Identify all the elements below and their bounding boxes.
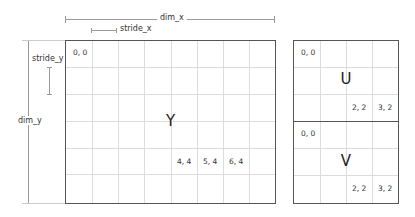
stride-y-line — [49, 67, 50, 94]
grid-line — [223, 41, 224, 203]
cell-label: 3, 2 — [378, 184, 392, 193]
stride-y-tick-top — [47, 67, 52, 68]
grid-line — [92, 41, 93, 203]
grid-line — [118, 41, 119, 203]
cell-label: 6, 4 — [229, 157, 243, 166]
grid-line — [66, 148, 275, 149]
dim-y-label: dim_y — [15, 116, 45, 125]
stride-x-tick-left — [91, 28, 92, 33]
grid-line — [320, 122, 321, 203]
u-plane-label: U — [341, 70, 352, 88]
stride-x-label: stride_x — [117, 24, 155, 33]
stride-y-label: stride_y — [32, 54, 64, 63]
dim-y-extension-top — [22, 40, 65, 41]
cell-label: 0, 0 — [73, 48, 87, 57]
dim-x-tick-left — [65, 16, 66, 23]
grid-line — [294, 67, 398, 68]
cell-label: 4, 4 — [177, 157, 191, 166]
grid-line — [320, 41, 321, 122]
cell-label: 0, 0 — [301, 48, 315, 57]
v-plane: 0, 0 2, 2 3, 2 V — [293, 121, 399, 204]
cell-label: 2, 2 — [352, 103, 366, 112]
grid-line — [372, 122, 373, 203]
grid-line — [197, 41, 198, 203]
cell-label: 5, 4 — [203, 157, 217, 166]
grid-line — [294, 148, 398, 149]
grid-line — [294, 94, 398, 95]
dim-y-extension-bottom — [22, 203, 65, 204]
u-plane: 0, 0 2, 2 3, 2 U — [293, 40, 399, 123]
stride-x-line — [91, 30, 116, 31]
grid-line — [66, 67, 275, 68]
v-plane-label: V — [341, 152, 351, 170]
cell-label: 2, 2 — [352, 184, 366, 193]
dim-x-tick-right — [274, 16, 275, 23]
y-plane-label: Y — [166, 112, 175, 130]
grid-line — [372, 41, 373, 122]
grid-line — [294, 175, 398, 176]
cell-label: 0, 0 — [301, 129, 315, 138]
cell-label: 3, 2 — [378, 103, 392, 112]
grid-line — [144, 41, 145, 203]
grid-line — [66, 94, 275, 95]
grid-line — [66, 174, 275, 175]
dim-x-label: dim_x — [157, 13, 187, 22]
grid-line — [249, 41, 250, 203]
y-plane: 0, 0 4, 4 5, 4 6, 4 Y — [65, 40, 276, 204]
stride-y-tick-bottom — [47, 94, 52, 95]
